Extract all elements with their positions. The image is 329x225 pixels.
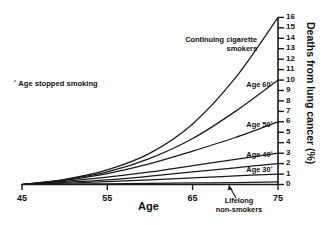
lung-cancer-mortality-chart: 16 15 14 13 12 11 10 9 8 7 6 5 4 3 2 1 0…: [0, 0, 329, 225]
x-axis-title: Age: [138, 200, 159, 212]
curve-label-age30: Age 30˚: [185, 166, 273, 174]
x-axis-ticks: [22, 185, 278, 191]
xtick-65: 65: [181, 193, 205, 203]
ytick-13: 13: [286, 44, 295, 53]
ytick-14: 14: [286, 34, 295, 43]
ytick-15: 15: [286, 23, 295, 32]
ytick-10: 10: [286, 76, 295, 85]
ytick-5: 5: [286, 128, 290, 137]
lifelong-pointer-arrowhead: [227, 185, 232, 190]
y-axis-title: Deaths from lung cancer (%): [304, 22, 316, 164]
ytick-16: 16: [286, 13, 295, 22]
curve-label-age50: Age 50˚: [185, 121, 273, 129]
ytick-1: 1: [286, 170, 290, 179]
ytick-9: 9: [286, 86, 290, 95]
ytick-12: 12: [286, 55, 295, 64]
curve-label-age40: Age 40˚: [185, 151, 273, 159]
y-axis-ticks: [278, 17, 284, 184]
chart-plot-area: [0, 0, 329, 225]
ytick-7: 7: [286, 107, 290, 116]
ytick-11: 11: [286, 65, 294, 74]
curve-label-age60: Age 60˚: [185, 81, 273, 89]
ytick-4: 4: [286, 138, 290, 147]
xtick-45: 45: [10, 193, 34, 203]
xtick-55: 55: [95, 193, 119, 203]
ytick-2: 2: [286, 159, 290, 168]
ytick-0: 0: [286, 180, 290, 189]
footnote-age-stopped-smoking: ˚ Age stopped smoking: [14, 80, 98, 89]
ytick-3: 3: [286, 149, 290, 158]
ytick-6: 6: [286, 117, 290, 126]
ytick-8: 8: [286, 97, 290, 106]
curve-label-lifelong-line2: non-smokers: [203, 206, 275, 214]
curve-label-continuing-line2: smokers: [135, 45, 257, 53]
